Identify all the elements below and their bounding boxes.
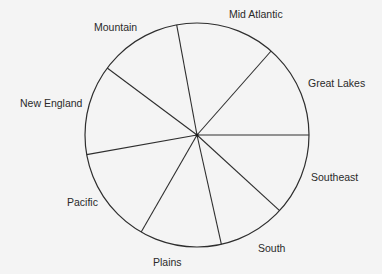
- slice-boundary: [141, 135, 197, 232]
- slice-boundary: [197, 135, 221, 244]
- pie-chart: Great LakesMid AtlanticMountainNew Engla…: [0, 0, 382, 274]
- slice-label-new-england: New England: [20, 97, 83, 109]
- slice-label-plains: Plains: [153, 256, 182, 268]
- slice-label-southeast: Southeast: [311, 171, 358, 183]
- slice-boundary: [107, 68, 197, 135]
- slice-label-mid-atlantic: Mid Atlantic: [229, 8, 283, 20]
- slice-boundary: [87, 135, 197, 155]
- slice-label-south: South: [258, 242, 286, 254]
- slice-boundary: [197, 51, 271, 135]
- slice-label-mountain: Mountain: [94, 21, 137, 33]
- pie-center-dot: [195, 133, 198, 136]
- slice-boundary: [197, 135, 280, 211]
- slice-label-great-lakes: Great Lakes: [308, 77, 365, 89]
- pie-labels: Great LakesMid AtlanticMountainNew Engla…: [20, 8, 365, 268]
- slice-boundary: [177, 25, 197, 135]
- slice-label-pacific: Pacific: [67, 196, 98, 208]
